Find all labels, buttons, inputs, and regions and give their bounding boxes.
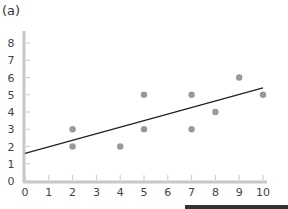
x-tick-label: 1 [45,186,52,199]
x-tick-label: 9 [236,186,243,199]
data-point [141,126,147,132]
y-tick-label: 3 [8,123,15,136]
data-point [117,143,123,149]
data-point [69,143,75,149]
x-tick-label: 0 [22,186,29,199]
data-point [141,92,147,98]
x-tick-label: 7 [188,186,195,199]
x-tick-label: 10 [256,186,270,199]
x-tick-label: 8 [212,186,219,199]
y-tick-label: 0 [8,175,15,188]
y-tick-label: 2 [8,141,15,154]
y-tick-label: 6 [8,72,15,85]
data-point [236,74,242,80]
x-tick-label: 5 [141,186,148,199]
y-tick-label: 8 [8,37,15,50]
data-point [260,92,266,98]
scatter-chart: 012345678012345678910 [0,0,288,209]
y-tick-label: 5 [8,89,15,102]
bottom-bar [185,205,288,209]
y-tick-label: 1 [8,158,15,171]
x-tick-label: 2 [69,186,76,199]
data-point [188,92,194,98]
y-tick-label: 7 [8,54,15,67]
x-tick-label: 6 [164,186,171,199]
y-tick-label: 4 [8,106,15,119]
data-point [212,109,218,115]
data-point [69,126,75,132]
x-tick-label: 3 [93,186,100,199]
x-tick-label: 4 [117,186,124,199]
data-point [188,126,194,132]
